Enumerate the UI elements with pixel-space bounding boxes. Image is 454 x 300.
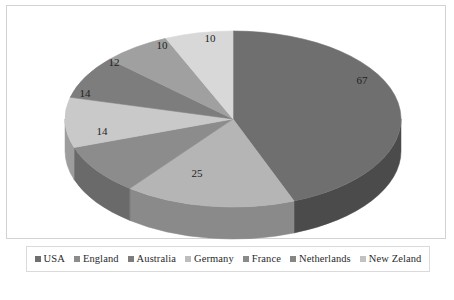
- pie-plot-area: 67251414121010: [7, 6, 447, 240]
- pie-chart-figure: 67251414121010 USAEnglandAustraliaGerman…: [0, 0, 454, 300]
- legend-item-label: New Zeland: [369, 254, 422, 265]
- legend-item-label: Australia: [137, 254, 176, 265]
- legend-item-label: Germany: [194, 254, 234, 265]
- legend-item-germany[interactable]: Germany: [185, 254, 234, 265]
- legend-swatch-icon: [35, 256, 41, 262]
- pie-svg: 67251414121010: [7, 6, 447, 240]
- data-label-england: 25: [192, 167, 204, 179]
- legend-item-new-zeland[interactable]: New Zeland: [360, 254, 422, 265]
- legend-item-netherlands[interactable]: Netherlands: [290, 254, 351, 265]
- legend-swatch-icon: [290, 256, 296, 262]
- legend-item-england[interactable]: England: [74, 254, 119, 265]
- legend-item-usa[interactable]: USA: [35, 254, 65, 265]
- data-label-france: 12: [109, 56, 120, 68]
- legend-swatch-icon: [360, 256, 366, 262]
- legend-item-label: USA: [44, 254, 65, 265]
- plot-area-frame: 67251414121010: [6, 5, 446, 239]
- legend-swatch-icon: [243, 256, 249, 262]
- data-label-usa: 67: [357, 74, 369, 86]
- data-label-australia: 14: [97, 125, 109, 137]
- data-label-netherlands: 10: [157, 39, 169, 51]
- chart-legend: USAEnglandAustraliaGermanyFranceNetherla…: [26, 246, 430, 272]
- legend-item-label: Netherlands: [299, 254, 351, 265]
- data-label-new-zeland: 10: [205, 32, 217, 44]
- legend-swatch-icon: [128, 256, 134, 262]
- legend-swatch-icon: [185, 256, 191, 262]
- legend-item-label: France: [252, 254, 281, 265]
- legend-item-australia[interactable]: Australia: [128, 254, 176, 265]
- legend-swatch-icon: [74, 256, 80, 262]
- legend-item-list: USAEnglandAustraliaGermanyFranceNetherla…: [35, 254, 422, 265]
- legend-item-label: England: [83, 254, 119, 265]
- data-label-germany: 14: [80, 87, 92, 99]
- legend-item-france[interactable]: France: [243, 254, 281, 265]
